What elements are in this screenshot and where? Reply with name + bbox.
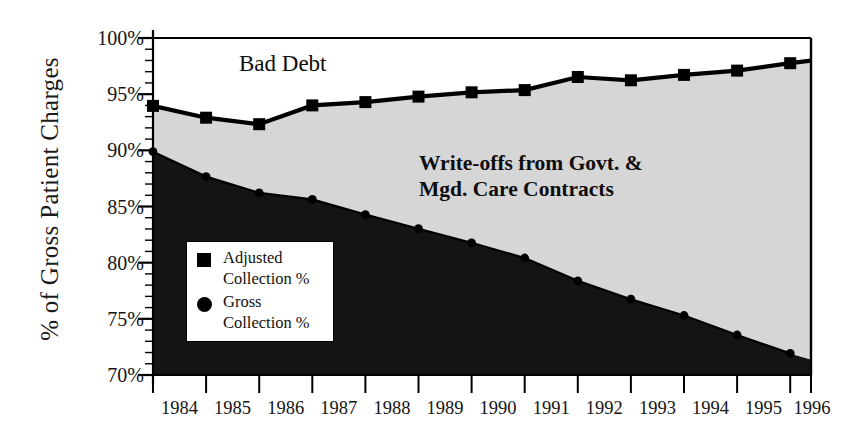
annotation-writeoffs: Write-offs from Govt. & Mgd. Care Contra… [419,150,643,202]
legend-gross-line1: Gross [223,291,310,312]
chart-figure: % of Gross Patient Charges [0,0,854,438]
x-tick-1990: 1990 [480,398,517,419]
legend-adjusted-line2: Collection % [223,268,310,289]
x-axis-tick-labels: 1984 1985 1986 1987 1988 1989 1990 1991 … [0,0,854,438]
x-tick-1984: 1984 [161,398,198,419]
x-tick-1989: 1989 [427,398,464,419]
x-tick-1985: 1985 [214,398,251,419]
x-tick-1988: 1988 [373,398,410,419]
x-tick-1993: 1993 [639,398,676,419]
x-tick-1987: 1987 [320,398,357,419]
annotation-bad-debt: Bad Debt [239,51,327,77]
annotation-writeoffs-line1: Write-offs from Govt. & [419,150,643,176]
legend-adjusted-line1: Adjusted [223,247,310,268]
x-tick-1994: 1994 [692,398,729,419]
x-tick-1996: 1996 [794,398,831,419]
legend-item-gross-collection[interactable]: Gross Collection % [197,293,333,337]
legend-item-adjusted-collection[interactable]: Adjusted Collection % [197,249,333,293]
x-tick-1992: 1992 [586,398,623,419]
legend-item-gross-collection-label: Gross Collection % [223,291,310,333]
chart-legend: Adjusted Collection % Gross Collection % [186,241,334,342]
circle-marker-icon [197,297,212,312]
x-tick-1995: 1995 [745,398,782,419]
x-tick-1991: 1991 [533,398,570,419]
legend-gross-line2: Collection % [223,312,310,333]
x-tick-1986: 1986 [267,398,304,419]
legend-item-adjusted-collection-label: Adjusted Collection % [223,247,310,289]
annotation-writeoffs-line2: Mgd. Care Contracts [419,176,643,202]
square-marker-icon [197,253,211,267]
